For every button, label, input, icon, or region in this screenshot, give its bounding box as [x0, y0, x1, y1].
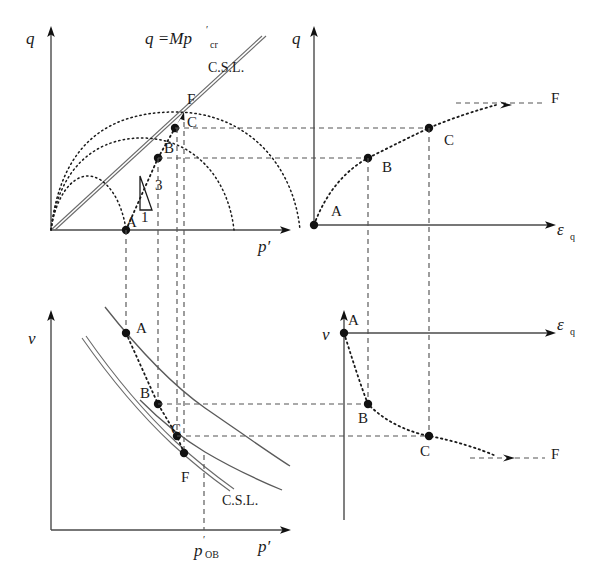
top-right-eps-axis-subscript: q	[570, 231, 575, 242]
bottom-right-eps-axis-subscript: q	[570, 326, 575, 337]
bottom-left-point-label-F: F	[181, 469, 189, 485]
top-left-q-axis-label: q	[26, 29, 35, 48]
slope-triangle-run-label: 1	[141, 209, 149, 225]
pob-prime: ′	[203, 534, 205, 545]
bottom-left-csl-label: C.S.L.	[222, 493, 258, 508]
bottom-right-point-label-F: F	[551, 446, 559, 462]
bottom-right-point-C	[425, 432, 433, 440]
bottom-left-v-axis-label: v	[28, 329, 36, 348]
csl-equation-label: q =Mp	[145, 29, 192, 48]
ncl-upper-curve	[105, 307, 290, 466]
bottom-right-point-label-C: C	[420, 443, 430, 459]
top-left-point-label-F: F	[187, 91, 195, 107]
top-left-point-label-B: B	[164, 140, 174, 156]
pob-label: p	[193, 541, 203, 560]
slope-triangle-rise-label: 3	[155, 177, 163, 193]
top-right-point-label-F: F	[551, 90, 559, 106]
top-right-point-label-A: A	[331, 203, 342, 219]
bottom-left-point-label-A: A	[136, 320, 147, 336]
bottom-right-point-label-B: B	[358, 410, 368, 426]
top-right-point-A	[310, 221, 318, 229]
four-quadrant-diagram: q p′ q =Mp cr ′ C.S.L. 3 1 F A B C	[0, 0, 608, 588]
bottom-left-point-F	[180, 449, 188, 457]
panel-bottom-right: v ε q F A B C	[322, 310, 575, 520]
panel-bottom-left: v p′ C.S.L. A B C F p OB ′	[28, 307, 429, 560]
bottom-right-eps-axis-label: ε	[557, 315, 564, 334]
csl-equation-prime: ′	[206, 24, 208, 35]
figure-root: q p′ q =Mp cr ′ C.S.L. 3 1 F A B C	[0, 0, 608, 588]
bottom-left-point-label-B: B	[140, 385, 150, 401]
csl-equation-subscript: cr	[210, 39, 218, 50]
top-left-csl-label: C.S.L.	[208, 60, 244, 75]
top-left-p-axis-label: p′	[257, 237, 271, 256]
bottom-right-point-label-A: A	[348, 312, 359, 328]
bottom-right-point-A	[340, 329, 348, 337]
bottom-left-point-label-C: C	[171, 421, 181, 437]
top-left-point-label-A: A	[126, 214, 137, 230]
pob-subscript: OB	[205, 549, 219, 560]
bottom-right-point-B	[364, 400, 372, 408]
bottom-right-f-arrow	[503, 455, 515, 462]
top-right-q-axis-label: q	[292, 29, 301, 48]
bottom-left-p-axis-label: p′	[257, 537, 271, 556]
top-right-point-label-C: C	[444, 132, 454, 148]
panel-top-left: q p′ q =Mp cr ′ C.S.L. 3 1 F A B C	[26, 24, 429, 453]
bottom-right-v-axis-label: v	[322, 325, 330, 344]
panel-top-right: q ε q F A B C	[292, 26, 575, 436]
bottom-left-point-A	[122, 329, 130, 337]
top-right-eps-axis-label: ε	[557, 220, 564, 239]
bottom-right-curve	[344, 333, 496, 456]
top-right-point-label-B: B	[382, 159, 392, 175]
